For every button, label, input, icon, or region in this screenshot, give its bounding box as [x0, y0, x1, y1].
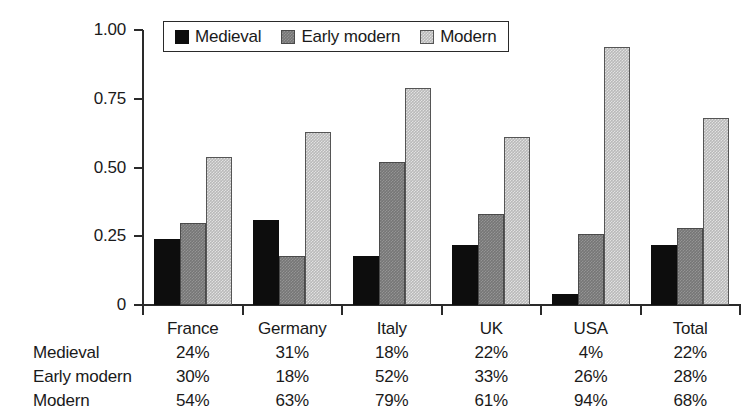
- legend-label: Modern: [440, 28, 496, 45]
- table-cell: 31%: [243, 341, 343, 365]
- chart-legend: MedievalEarly modernModern: [163, 21, 509, 52]
- legend-label: Early modern: [301, 28, 400, 45]
- plot-area: [143, 30, 740, 305]
- x-axis-label-uk: UK: [442, 319, 542, 338]
- y-tick-label: 0.50: [80, 159, 126, 176]
- table-cell: 18%: [342, 341, 442, 365]
- bar-chart-figure: 00.250.500.751.00 FranceGermanyItalyUKUS…: [0, 0, 752, 418]
- legend-label: Medieval: [195, 28, 261, 45]
- table-cell: 54%: [143, 389, 243, 413]
- y-tick-label: 0.25: [80, 227, 126, 244]
- bar-usa-early-modern: [578, 234, 604, 306]
- x-axis-label-germany: Germany: [243, 319, 343, 338]
- bar-italy-medieval: [353, 256, 379, 306]
- table-row: Medieval24%31%18%22%4%22%: [0, 341, 752, 365]
- bar-france-early-modern: [180, 223, 206, 306]
- bar-france-medieval: [154, 239, 180, 305]
- table-cell: 61%: [442, 389, 542, 413]
- table-cell: 94%: [541, 389, 641, 413]
- table-cell: 33%: [442, 365, 542, 389]
- table-cell: 22%: [442, 341, 542, 365]
- bar-france-modern: [206, 157, 232, 306]
- table-cell: 22%: [641, 341, 741, 365]
- y-tick-label: 0: [80, 296, 126, 313]
- bar-total-modern: [703, 118, 729, 305]
- x-axis-label-italy: Italy: [342, 319, 442, 338]
- bar-germany-medieval: [253, 220, 279, 305]
- bar-uk-modern: [504, 137, 530, 305]
- bar-total-medieval: [651, 245, 677, 306]
- table-cell: 24%: [143, 341, 243, 365]
- modern-swatch: [420, 30, 434, 44]
- y-tick-label: 0.75: [80, 90, 126, 107]
- y-tick-label: 1.00: [80, 21, 126, 38]
- x-tick-mark: [640, 306, 642, 315]
- x-tick-mark: [142, 306, 144, 315]
- y-tick-mark: [134, 167, 143, 169]
- x-tick-mark: [341, 306, 343, 315]
- bar-italy-modern: [405, 88, 431, 305]
- bar-uk-medieval: [452, 245, 478, 306]
- x-axis-label-usa: USA: [541, 319, 641, 338]
- y-tick-mark: [134, 29, 143, 31]
- table-cell: 28%: [641, 365, 741, 389]
- bar-usa-medieval: [552, 294, 578, 305]
- table-row-label-medieval: Medieval: [33, 341, 99, 365]
- table-row: Early modern30%18%52%33%26%28%: [0, 365, 752, 389]
- early-modern-swatch: [281, 30, 295, 44]
- bar-usa-modern: [604, 47, 630, 306]
- table-row: Modern54%63%79%61%94%68%: [0, 389, 752, 413]
- x-tick-mark: [739, 306, 741, 315]
- legend-item-modern[interactable]: Modern: [420, 28, 496, 45]
- y-tick-mark: [134, 98, 143, 100]
- x-axis-label-total: Total: [641, 319, 741, 338]
- bar-germany-modern: [305, 132, 331, 305]
- table-row-label-early-modern: Early modern: [33, 365, 132, 389]
- x-axis-label-france: France: [143, 319, 243, 338]
- bar-germany-early-modern: [279, 256, 305, 306]
- medieval-swatch: [175, 30, 189, 44]
- table-cell: 30%: [143, 365, 243, 389]
- table-cell: 4%: [541, 341, 641, 365]
- table-cell: 79%: [342, 389, 442, 413]
- x-tick-mark: [242, 306, 244, 315]
- legend-item-medieval[interactable]: Medieval: [175, 28, 261, 45]
- x-tick-mark: [540, 306, 542, 315]
- bar-italy-early-modern: [379, 162, 405, 305]
- x-tick-mark: [441, 306, 443, 315]
- table-cell: 52%: [342, 365, 442, 389]
- table-cell: 63%: [243, 389, 343, 413]
- bar-uk-early-modern: [478, 214, 504, 305]
- y-tick-mark: [134, 235, 143, 237]
- table-cell: 26%: [541, 365, 641, 389]
- legend-item-early-modern[interactable]: Early modern: [281, 28, 400, 45]
- bar-total-early-modern: [677, 228, 703, 305]
- data-table: Medieval24%31%18%22%4%22%Early modern30%…: [0, 341, 752, 413]
- table-cell: 18%: [243, 365, 343, 389]
- table-cell: 68%: [641, 389, 741, 413]
- table-row-label-modern: Modern: [33, 389, 89, 413]
